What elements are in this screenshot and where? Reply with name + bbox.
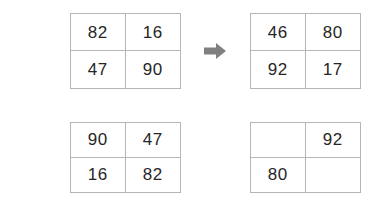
grid-cell: 82: [71, 14, 126, 51]
number-grid-3: 90 47 16 82: [70, 122, 181, 193]
grid-cell: 92: [251, 51, 306, 88]
grid-cell: 47: [71, 51, 126, 88]
grid-cell: [251, 123, 306, 158]
grid-cell: 90: [126, 51, 181, 88]
grid-cell: 17: [306, 51, 361, 88]
sequence-row-1: 82 16 47 90 46 80 92 17: [0, 13, 386, 89]
grid-cell: 16: [71, 158, 126, 193]
grid-cell: [306, 158, 361, 193]
grid-cell: 80: [306, 14, 361, 51]
grid-cell: 92: [306, 123, 361, 158]
grid-cell: 80: [251, 158, 306, 193]
sequence-row-2: 90 47 16 82 92 80: [0, 122, 386, 193]
puzzle-canvas: 82 16 47 90 46 80 92 17 90 47 16: [0, 0, 386, 212]
grid-cell: 16: [126, 14, 181, 51]
number-grid-4: 92 80: [250, 122, 361, 193]
number-grid-1: 82 16 47 90: [70, 13, 181, 89]
grid-cell: 82: [126, 158, 181, 193]
arrow-right-icon: [204, 42, 226, 60]
grid-cell: 46: [251, 14, 306, 51]
grid-cell: 47: [126, 123, 181, 158]
number-grid-2: 46 80 92 17: [250, 13, 361, 89]
grid-cell: 90: [71, 123, 126, 158]
